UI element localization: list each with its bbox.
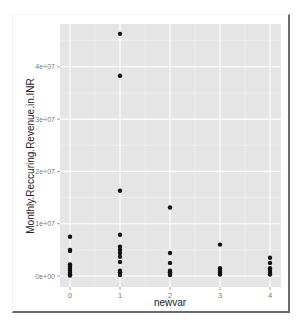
x-tick-label: 3 — [218, 291, 222, 300]
data-point — [168, 261, 172, 265]
x-axis-title: newvar — [154, 297, 187, 308]
x-tick-label: 1 — [118, 291, 122, 300]
y-axis: 0e+001e+072e+073e+074e+07 — [35, 63, 60, 279]
data-point — [68, 235, 72, 239]
y-tick-label: 4e+07 — [35, 63, 55, 70]
data-point — [268, 272, 272, 276]
data-point — [218, 272, 222, 276]
y-tick-label: 3e+07 — [35, 116, 55, 123]
data-point — [118, 260, 122, 264]
data-point — [118, 232, 122, 236]
data-point — [68, 249, 72, 253]
data-point — [118, 73, 122, 77]
data-point — [168, 273, 172, 277]
data-point — [268, 255, 272, 259]
x-tick-label: 0 — [68, 291, 72, 300]
data-point — [118, 32, 122, 36]
scatter-chart: 0e+001e+072e+073e+074e+07 01234 newvar M… — [0, 0, 302, 330]
y-tick-label: 1e+07 — [35, 220, 55, 227]
y-axis-title: Monthly.Reccuring.Revenue.in.INR — [25, 78, 36, 233]
data-point — [168, 251, 172, 255]
data-point — [218, 242, 222, 246]
data-point — [68, 273, 72, 277]
data-point — [268, 261, 272, 265]
y-tick-label: 2e+07 — [35, 168, 55, 175]
data-point — [168, 205, 172, 209]
data-point — [118, 254, 122, 258]
data-point — [118, 189, 122, 193]
x-tick-label: 4 — [268, 291, 272, 300]
data-point — [118, 273, 122, 277]
y-tick-label: 0e+00 — [35, 273, 55, 280]
